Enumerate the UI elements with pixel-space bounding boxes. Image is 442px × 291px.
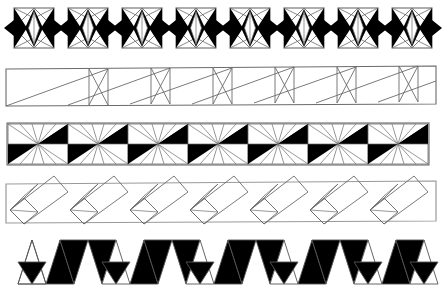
band-4-graphic — [0, 172, 442, 232]
band-5-units — [18, 240, 438, 284]
band-2-graphic — [0, 56, 442, 114]
ornament-plate — [0, 0, 442, 291]
band-alternating-triangle-zigzag — [0, 232, 442, 291]
band-tilted-rectangle-overlap — [0, 172, 442, 232]
band-rectangle-diagonal-truss — [0, 56, 442, 114]
band-1-units — [4, 8, 442, 48]
band-3-units — [8, 124, 428, 164]
band-radiating-fan-pinwheel — [0, 114, 442, 172]
band-square-lozenge-rosette — [0, 0, 442, 56]
band-1-graphic — [0, 0, 442, 56]
band-3-graphic — [0, 114, 442, 172]
band-5-graphic — [0, 232, 442, 291]
band-2-units — [6, 66, 436, 106]
